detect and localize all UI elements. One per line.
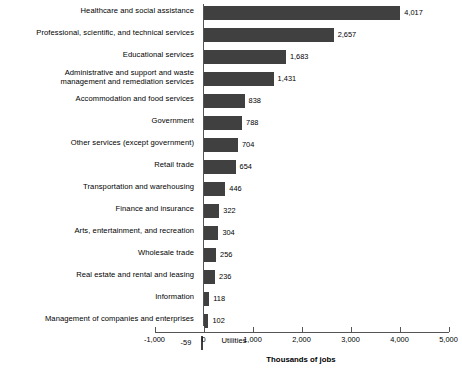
chart-row: Professional, scientific, and technical … bbox=[0, 24, 462, 46]
chart-row: Management of companies and enterprises1… bbox=[0, 310, 462, 332]
category-label: Educational services bbox=[0, 46, 194, 59]
category-label: Information bbox=[0, 288, 194, 301]
bar bbox=[204, 270, 216, 284]
chart-row: Other services (except government)704 bbox=[0, 134, 462, 156]
category-label: Other services (except government) bbox=[0, 134, 194, 147]
bar bbox=[204, 50, 286, 64]
x-tick-label: 0 bbox=[179, 335, 229, 345]
chart-row: Finance and insurance322 bbox=[0, 200, 462, 222]
bar-value-label: 304 bbox=[222, 226, 234, 240]
bar bbox=[204, 204, 220, 218]
chart-row: Information118 bbox=[0, 288, 462, 310]
bar bbox=[204, 94, 245, 108]
bar-value-label: 838 bbox=[249, 94, 261, 108]
bar-value-label: 446 bbox=[229, 182, 241, 196]
chart-row: Arts, entertainment, and recreation304 bbox=[0, 222, 462, 244]
bar-value-label: 322 bbox=[223, 204, 235, 218]
bar-value-label: 4,017 bbox=[404, 6, 423, 20]
chart-row: Healthcare and social assistance4,017 bbox=[0, 2, 462, 24]
x-tick bbox=[351, 327, 352, 332]
category-label: Government bbox=[0, 112, 194, 125]
bar-value-label: 704 bbox=[242, 138, 254, 152]
bar bbox=[204, 6, 401, 20]
x-tick bbox=[449, 327, 450, 332]
x-tick-label: 4,000 bbox=[375, 335, 425, 345]
bar bbox=[204, 226, 219, 240]
bar bbox=[204, 248, 217, 262]
chart-row: Real estate and rental and leasing236 bbox=[0, 266, 462, 288]
bar-chart: Healthcare and social assistance4,017Pro… bbox=[0, 0, 462, 373]
x-tick bbox=[400, 327, 401, 332]
category-label: Retail trade bbox=[0, 156, 194, 169]
chart-row: Transportation and warehousing446 bbox=[0, 178, 462, 200]
bar bbox=[204, 182, 226, 196]
bar bbox=[204, 314, 209, 328]
x-tick bbox=[302, 327, 303, 332]
x-tick bbox=[155, 327, 156, 332]
bar-value-label: 118 bbox=[213, 292, 225, 306]
x-tick-label: 2,000 bbox=[277, 335, 327, 345]
bar bbox=[204, 72, 274, 86]
category-label: Transportation and warehousing bbox=[0, 178, 194, 191]
category-label: Real estate and rental and leasing bbox=[0, 266, 194, 279]
x-tick-label: -1,000 bbox=[130, 335, 180, 345]
bar-value-label: 2,657 bbox=[338, 28, 357, 42]
category-label: Finance and insurance bbox=[0, 200, 194, 213]
category-label: Healthcare and social assistance bbox=[0, 2, 194, 15]
bar-value-label: 102 bbox=[212, 314, 224, 328]
bar-value-label: 788 bbox=[246, 116, 258, 130]
x-axis-line bbox=[155, 332, 449, 333]
x-tick-label: 1,000 bbox=[228, 335, 278, 345]
category-label: Professional, scientific, and technical … bbox=[0, 24, 194, 37]
bar bbox=[204, 138, 238, 152]
bar-value-label: 256 bbox=[220, 248, 232, 262]
bar bbox=[204, 28, 334, 42]
chart-row: Retail trade654 bbox=[0, 156, 462, 178]
bar-value-label: 1,431 bbox=[278, 72, 297, 86]
bar bbox=[204, 116, 243, 130]
chart-row: Government788 bbox=[0, 112, 462, 134]
category-label: Wholesale trade bbox=[0, 244, 194, 257]
x-tick bbox=[253, 327, 254, 332]
bar bbox=[204, 160, 236, 174]
x-tick-label: 3,000 bbox=[326, 335, 376, 345]
category-label: Administrative and support and waste man… bbox=[0, 68, 194, 86]
chart-row: Administrative and support and waste man… bbox=[0, 68, 462, 90]
category-label: Accommodation and food services bbox=[0, 90, 194, 103]
chart-row: Wholesale trade256 bbox=[0, 244, 462, 266]
bar-value-label: 236 bbox=[219, 270, 231, 284]
x-tick bbox=[204, 327, 205, 332]
category-label: Management of companies and enterprises bbox=[0, 310, 194, 323]
chart-row: Accommodation and food services838 bbox=[0, 90, 462, 112]
zero-axis-line bbox=[203, 4, 204, 326]
category-label: Arts, entertainment, and recreation bbox=[0, 222, 194, 235]
bar-value-label: 1,683 bbox=[290, 50, 309, 64]
bar-value-label: 654 bbox=[240, 160, 252, 174]
x-tick-label: 5,000 bbox=[424, 335, 462, 345]
x-axis-title: Thousands of jobs bbox=[0, 355, 462, 364]
chart-row: Educational services1,683 bbox=[0, 46, 462, 68]
bar bbox=[204, 292, 210, 306]
